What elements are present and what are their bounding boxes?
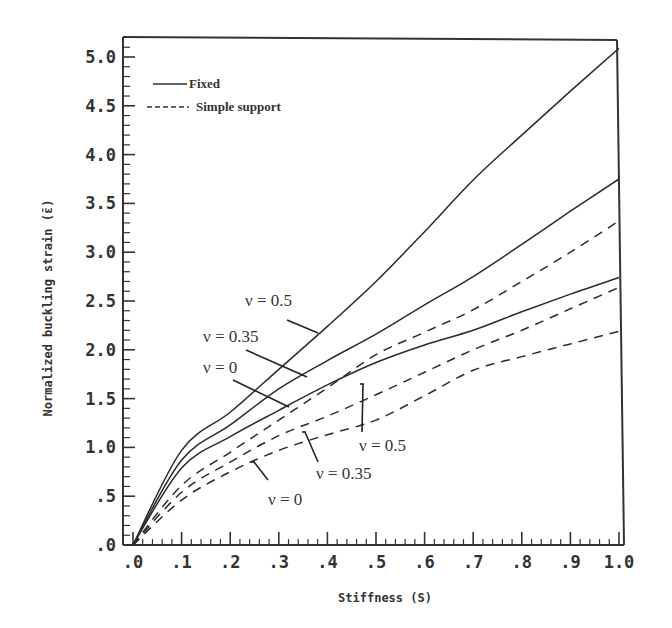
x-axis-ticks: .0.1.2.3.4.5.6.7.8.91.0 (123, 532, 635, 572)
y-tick-label: 5.0 (85, 47, 116, 67)
y-tick-label: 2.5 (85, 291, 116, 311)
y-tick-label: 1.0 (85, 437, 116, 457)
y-tick-label: 1.5 (85, 389, 116, 409)
y-axis-ticks: .0.51.01.52.02.53.03.54.04.55.0 (85, 47, 135, 555)
x-tick-label: .0 (123, 552, 143, 572)
x-tick-label: .6 (414, 552, 434, 572)
series-lines (133, 48, 619, 545)
x-tick-label: 1.0 (604, 552, 635, 572)
series-line (133, 278, 619, 545)
legend: Fixed Simple support (147, 76, 282, 114)
x-tick-label: .5 (366, 552, 386, 572)
x-tick-label: .4 (317, 552, 337, 572)
y-tick-label: .0 (96, 535, 116, 555)
x-tick-label: .1 (171, 552, 191, 572)
x-tick-label: .7 (463, 552, 483, 572)
y-tick-label: 4.0 (85, 145, 116, 165)
series-line (133, 287, 619, 545)
x-tick-label: .2 (220, 552, 240, 572)
y-tick-label: 4.5 (85, 96, 116, 116)
buckling-strain-chart: .0.51.01.52.02.53.03.54.04.55.0 .0.1.2.3… (0, 0, 672, 628)
annotation-fixed-nu-0.5: ν = 0.5 (245, 291, 292, 310)
annotation-simple-nu-0: ν = 0 (268, 490, 302, 509)
legend-simple-support-label: Simple support (196, 99, 282, 114)
annotation-simple-nu-0.5: ν = 0.5 (359, 436, 406, 455)
y-tick-label: 3.5 (85, 193, 116, 213)
y-tick-label: 3.0 (85, 242, 116, 262)
series-line (133, 221, 619, 545)
y-axis-title: Normalized buckling strain (ε̄) (41, 200, 55, 417)
annotation-fixed-nu-0.35: ν = 0.35 (203, 327, 259, 346)
annotation-fixed-nu-0: ν = 0 (203, 358, 237, 377)
x-tick-label: .3 (269, 552, 289, 572)
series-line (133, 48, 619, 545)
legend-fixed-label: Fixed (189, 76, 221, 91)
x-tick-label: .9 (560, 552, 580, 572)
annotation-simple-nu-0.35: ν = 0.35 (316, 464, 372, 483)
x-axis-title: Stiffness (S) (338, 591, 432, 605)
y-tick-label: 2.0 (85, 340, 116, 360)
y-tick-label: .5 (96, 486, 116, 506)
x-tick-label: .8 (512, 552, 532, 572)
